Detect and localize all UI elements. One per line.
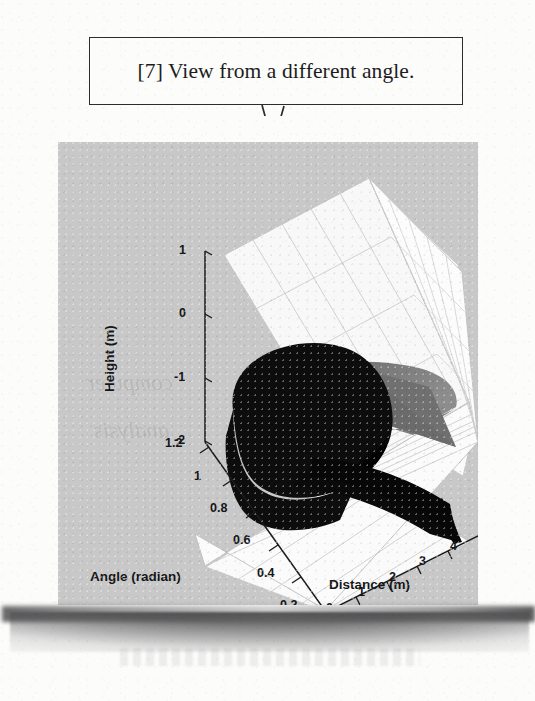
z-axis-label: Height (m) [102, 325, 117, 392]
y-axis-label: Angle (radian) [90, 569, 181, 584]
annotation-callout-text: [7] View from a different angle. [138, 59, 415, 84]
y-tick-3: 0.8 [210, 501, 227, 515]
plot-panel: computer analysis method [58, 142, 478, 605]
scanned-page: [7] View from a different angle. compute… [0, 0, 535, 701]
x-tick-4: 4 [450, 539, 457, 553]
z-tick-1: 0 [179, 306, 186, 320]
y-tick-4: 1 [194, 469, 201, 483]
y-tick-2: 0.6 [233, 533, 250, 547]
z-tick-2: -1 [174, 370, 185, 384]
y-tick-5: 1.2 [165, 436, 182, 450]
surface-plot-graphic [58, 142, 478, 605]
x-tick-3: 3 [419, 554, 426, 568]
figure-frame: computer analysis method [27, 116, 511, 610]
y-tick-0: 0.2 [280, 598, 297, 605]
z-tick-0: 1 [179, 243, 186, 257]
x-axis-label: Distance (m) [329, 577, 410, 592]
page-showthrough-text [120, 648, 420, 666]
annotation-callout-box: [7] View from a different angle. [89, 37, 463, 105]
y-tick-1: 0.4 [257, 566, 274, 580]
x-tick-0: 0 [326, 601, 333, 605]
scan-gutter-shadow [10, 612, 529, 652]
